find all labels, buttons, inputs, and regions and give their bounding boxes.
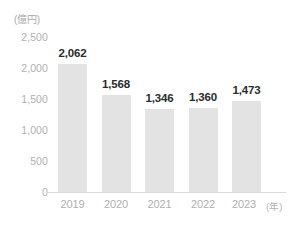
y-tick-label-500: 500 — [4, 155, 48, 167]
bar-chart: (億円) 2,500 2,000 1,500 1,000 500 0 2,062… — [0, 0, 297, 227]
y-tick-label-2500: 2,500 — [4, 31, 48, 43]
bar-2020 — [102, 95, 131, 192]
y-tick-label-2000: 2,000 — [4, 62, 48, 74]
bar-2019 — [58, 64, 87, 192]
x-tick-label-2023: 2023 — [214, 198, 274, 210]
bar-value-2023: 1,473 — [217, 84, 277, 96]
y-tick-label-1500: 1,500 — [4, 93, 48, 105]
bar-value-2020: 1,568 — [86, 78, 146, 90]
bar-2023 — [232, 101, 261, 192]
bar-2021 — [145, 109, 174, 192]
y-tick-label-1000: 1,000 — [4, 124, 48, 136]
plot-area: 2,500 2,000 1,500 1,000 500 0 2,062 1,56… — [0, 0, 297, 227]
x-axis-unit-label: (年) — [266, 199, 282, 213]
bar-value-2019: 2,062 — [43, 47, 103, 59]
y-tick-label-0: 0 — [4, 186, 48, 198]
x-axis-line — [50, 192, 286, 193]
bar-2022 — [189, 108, 218, 192]
